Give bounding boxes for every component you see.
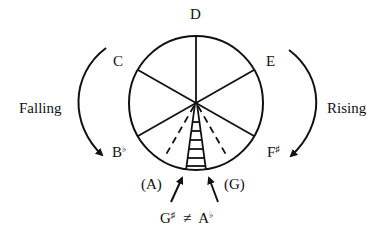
note-c: C bbox=[113, 54, 123, 69]
note-a-parenthetical: (A) bbox=[141, 177, 162, 192]
rising-arrow-icon bbox=[289, 50, 316, 156]
note-g-parenthetical: (G) bbox=[224, 177, 245, 192]
falling-arrow-icon bbox=[78, 48, 106, 155]
note-d: D bbox=[190, 7, 201, 22]
pointer-arrow-right-icon bbox=[209, 178, 218, 202]
enharmonic-note: G♯ ≠ A♭ bbox=[160, 208, 213, 226]
falling-label: Falling bbox=[19, 101, 62, 116]
note-b-flat: B♭ bbox=[112, 142, 126, 160]
spokes bbox=[138, 36, 254, 136]
whole-tone-circle-diagram bbox=[0, 0, 387, 232]
dashed-spokes bbox=[164, 106, 228, 158]
note-e: E bbox=[266, 54, 275, 69]
pointer-arrow-left-icon bbox=[171, 178, 182, 202]
ladder-wedge bbox=[186, 104, 206, 170]
note-f-sharp: F♯ bbox=[267, 142, 280, 160]
rising-label: Rising bbox=[327, 101, 366, 116]
